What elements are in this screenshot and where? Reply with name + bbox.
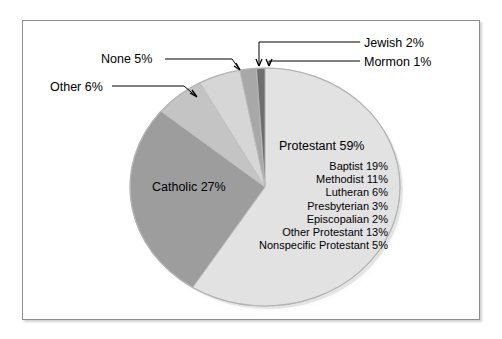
leader-line-mormon: [266, 59, 360, 66]
breakdown-item-presbyterian: Presbyterian 3%: [180, 200, 388, 213]
breakdown-item-nonspecific-protestant: Nonspecific Protestant 5%: [180, 239, 388, 252]
pie-chart-figure: Protestant 59% Baptist 19% Methodist 11%…: [0, 0, 502, 339]
leader-line-jewish: [256, 42, 360, 66]
protestant-breakdown-list: Baptist 19% Methodist 11% Lutheran 6% Pr…: [180, 160, 388, 252]
breakdown-item-other-protestant: Other Protestant 13%: [180, 226, 388, 239]
leader-line-none: [165, 59, 240, 70]
slice-label-jewish: Jewish 2%: [364, 36, 424, 50]
breakdown-item-episcopalian: Episcopalian 2%: [180, 213, 388, 226]
slice-label-mormon: Mormon 1%: [364, 55, 431, 69]
slice-label-other: Other 6%: [50, 80, 103, 94]
breakdown-item-baptist: Baptist 19%: [180, 160, 388, 173]
slice-label-catholic: Catholic 27%: [152, 180, 226, 194]
slice-label-none: None 5%: [101, 52, 152, 66]
slice-label-protestant: Protestant 59%: [279, 139, 364, 153]
